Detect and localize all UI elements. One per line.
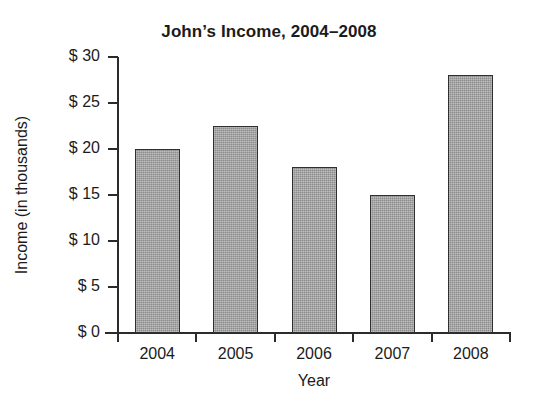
x-axis-tick-label: 2004 <box>117 345 197 363</box>
y-axis-tick-mark <box>108 286 118 288</box>
y-axis-tick-label: $ 20 <box>38 139 100 157</box>
y-axis-tick-label: $ 25 <box>38 93 100 111</box>
y-axis-tick-label-text: $ 30 <box>38 47 100 65</box>
x-axis-tick-mark <box>117 333 119 342</box>
y-axis-tick-label: $ 30 <box>38 47 100 65</box>
y-axis-tick-mark <box>108 194 118 196</box>
y-axis-tick-label-text: $ 15 <box>38 185 100 203</box>
y-axis-tick-mark <box>108 240 118 242</box>
x-axis-tick-label: 2008 <box>431 345 511 363</box>
y-axis-tick-label: $ 0 <box>38 323 100 341</box>
chart-title: John’s Income, 2004–2008 <box>0 22 538 42</box>
bar-2007 <box>370 195 415 333</box>
x-axis-tick-mark <box>274 333 276 342</box>
x-axis-tick-label: 2007 <box>352 345 432 363</box>
y-axis-tick-mark <box>108 56 118 58</box>
y-axis-tick-label: $ 10 <box>38 231 100 249</box>
x-axis-tick-label: 2005 <box>196 345 276 363</box>
x-axis-tick-mark <box>195 333 197 342</box>
y-axis-title: Income (in thousands) <box>10 57 34 333</box>
plot-area <box>118 57 510 333</box>
y-axis-tick-label-text: $ 5 <box>38 277 100 295</box>
x-axis-tick-label: 2006 <box>274 345 354 363</box>
y-axis-title-text: Income (in thousands) <box>13 116 31 274</box>
bar-chart-figure: John’s Income, 2004–2008 Income (in thou… <box>0 0 538 412</box>
y-axis-tick-label-text: $ 20 <box>38 139 100 157</box>
y-axis-tick-label: $ 5 <box>38 277 100 295</box>
y-axis-tick-mark <box>108 148 118 150</box>
y-axis-tick-label: $ 15 <box>38 185 100 203</box>
y-axis-tick-mark <box>108 102 118 104</box>
x-axis-title: Year <box>118 372 510 390</box>
bar-2005 <box>213 126 258 333</box>
bar-2008 <box>448 75 493 333</box>
x-axis-tick-mark <box>431 333 433 342</box>
y-axis-tick-label-text: $ 10 <box>38 231 100 249</box>
y-axis-tick-label-text: $ 25 <box>38 93 100 111</box>
x-axis-tick-mark <box>352 333 354 342</box>
bar-2004 <box>135 149 180 333</box>
bar-2006 <box>292 167 337 333</box>
y-axis-tick-label-text: $ 0 <box>38 323 100 341</box>
x-axis-tick-mark <box>509 333 511 342</box>
